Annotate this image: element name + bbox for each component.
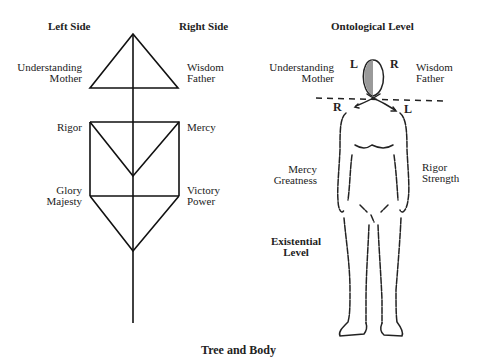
head-left-marker: L bbox=[350, 59, 358, 70]
body-understanding-label: Understanding Mother bbox=[269, 62, 334, 84]
right-side-header: Right Side bbox=[179, 21, 228, 32]
label-line: Mother bbox=[269, 73, 334, 84]
shoulder-right-marker: R bbox=[333, 102, 342, 113]
figure-caption: Tree and Body bbox=[0, 345, 477, 356]
label-line: Greatness bbox=[274, 175, 317, 186]
tree-victory-label: Victory Power bbox=[187, 185, 220, 207]
tree-understanding-label: Understanding Mother bbox=[17, 62, 82, 84]
label-line: Father bbox=[187, 73, 224, 84]
shoulder-left-marker: L bbox=[404, 104, 412, 115]
upper-triangle bbox=[90, 34, 178, 88]
head-right-marker: R bbox=[390, 59, 399, 70]
body-rigor-label: Rigor Strength bbox=[422, 162, 459, 184]
human-body-figure bbox=[338, 60, 409, 336]
label-line: Strength bbox=[422, 173, 459, 184]
tree-mercy-label: Mercy bbox=[187, 122, 216, 133]
ontological-level-title: Ontological Level bbox=[331, 21, 414, 32]
body-wisdom-label: Wisdom Father bbox=[416, 62, 453, 84]
body-mercy-label: Mercy Greatness bbox=[274, 164, 317, 186]
tree-glory-label: Glory Majesty bbox=[47, 185, 82, 207]
label-line: Father bbox=[416, 73, 453, 84]
lower-triangle bbox=[90, 196, 179, 251]
left-side-header: Left Side bbox=[48, 21, 90, 32]
existential-level-label: Existential Level bbox=[266, 236, 326, 258]
tree-diagram bbox=[0, 0, 477, 359]
tree-wisdom-label: Wisdom Father bbox=[187, 62, 224, 84]
label-line: Majesty bbox=[47, 196, 82, 207]
middle-triangle bbox=[90, 122, 179, 176]
tree-rigor-label: Rigor bbox=[57, 122, 82, 133]
label-line: Power bbox=[187, 196, 220, 207]
label-line: Mother bbox=[17, 73, 82, 84]
label-line: Level bbox=[266, 247, 326, 258]
